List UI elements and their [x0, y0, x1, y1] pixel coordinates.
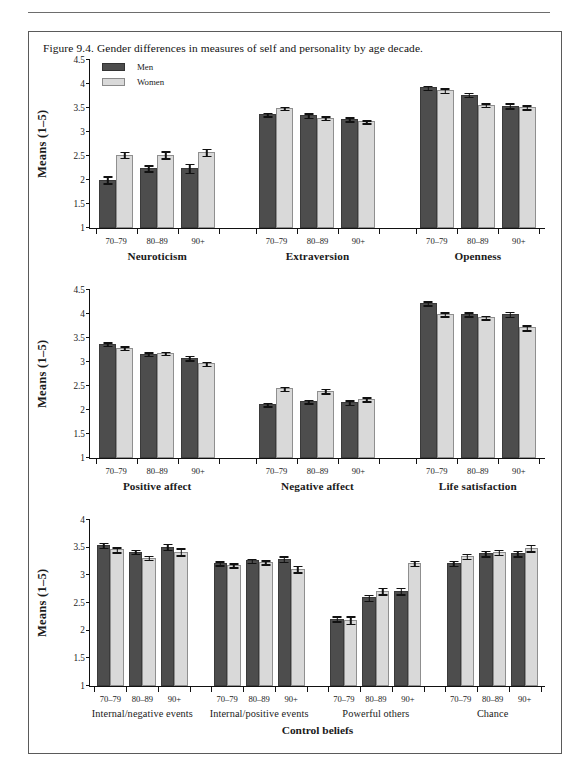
x-tick-mark	[498, 229, 499, 234]
bar-men	[511, 553, 525, 686]
error-bar	[321, 389, 330, 395]
bar-men	[420, 87, 437, 228]
bar-men	[259, 114, 276, 228]
panel-openness	[411, 60, 545, 228]
y-tick-label: 4.5	[73, 285, 90, 294]
error-bar	[202, 149, 211, 158]
error-bar	[163, 544, 172, 552]
figure-container: Figure 9.4. Gender differences in measur…	[28, 31, 562, 754]
bar-men	[181, 358, 198, 458]
bar-women	[358, 121, 375, 228]
bar-men	[140, 168, 157, 228]
error-bar	[145, 556, 154, 562]
error-bar	[177, 548, 186, 557]
panel-internal-negative-events	[90, 520, 195, 686]
y-tick-label: 1.5	[73, 654, 90, 663]
x-tick-mark	[379, 229, 380, 234]
page-top-rule	[28, 12, 550, 13]
plot-canvas: 11.522.533.544.570–7980–8990+70–7980–899…	[89, 60, 545, 228]
error-bar	[263, 113, 272, 118]
bar-women	[317, 118, 334, 228]
error-bar	[449, 561, 458, 568]
bar-women	[376, 591, 390, 686]
panel-title: Powerful others	[342, 708, 409, 719]
y-tick-label: 4	[80, 79, 90, 88]
x-tick-mark	[477, 687, 478, 692]
bar-men	[181, 168, 198, 228]
bar-group-container	[411, 60, 545, 228]
x-tick-mark	[498, 459, 499, 464]
x-axis-tick-label: 90+	[168, 694, 181, 704]
x-tick-mark	[360, 687, 361, 692]
x-axis-tick-label: 80–89	[307, 466, 328, 476]
error-bar	[346, 616, 355, 625]
panel-chance	[440, 520, 545, 686]
x-axis-tick-label: 80–89	[365, 694, 386, 704]
bar-group-container	[250, 60, 384, 228]
bar-men	[447, 563, 461, 686]
x-axis-tick-label: 70–79	[105, 466, 126, 476]
error-bar	[333, 616, 342, 623]
bar-women	[116, 155, 133, 228]
y-tick-label: 2	[80, 626, 90, 635]
error-bar	[321, 116, 330, 121]
bar-women	[493, 552, 507, 686]
error-bar	[120, 346, 129, 351]
error-bar	[248, 559, 257, 565]
x-axis-tick-label: 90+	[512, 236, 525, 246]
x-axis-tick-label: 70–79	[426, 466, 447, 476]
x-axis-tick-label: 80–89	[482, 694, 503, 704]
bar-group	[300, 290, 334, 458]
plot-area: 11.522.533.544.570–7980–8990+70–7980–899…	[89, 60, 544, 228]
x-axis-tick-label: 80–89	[307, 236, 328, 246]
x-tick-marks	[90, 229, 545, 234]
y-tick-label: 3	[80, 571, 90, 580]
bar-women	[227, 565, 241, 686]
bar-men	[502, 314, 519, 458]
bar-women	[519, 327, 536, 458]
bar-women	[408, 563, 422, 686]
bar-women	[437, 90, 454, 228]
bar-group	[161, 520, 188, 686]
x-tick-mark	[416, 459, 417, 464]
bar-women	[358, 399, 375, 458]
bar-women	[174, 552, 188, 686]
bar-men	[341, 402, 358, 458]
bar-women	[142, 558, 156, 686]
error-bar	[131, 550, 140, 556]
x-tick-mark	[256, 459, 257, 464]
error-bar	[378, 588, 387, 596]
y-axis-label: Means (1–5)	[35, 298, 53, 450]
chart-row-3: Means (1–5)11.522.533.5470–7980–8990+70–…	[29, 520, 563, 750]
bar-group-container	[207, 520, 312, 686]
error-bar	[293, 566, 302, 574]
bar-women	[276, 108, 293, 228]
x-tick-mark	[509, 687, 510, 692]
bar-group-container	[324, 520, 429, 686]
legend-swatch-women	[102, 78, 125, 86]
bar-group-container	[440, 520, 545, 686]
bar-men	[99, 180, 116, 228]
bar-women	[259, 562, 273, 686]
bar-men	[341, 119, 358, 228]
bar-group	[99, 290, 133, 458]
x-tick-mark	[297, 229, 298, 234]
y-tick-mark	[86, 457, 90, 458]
error-bar	[202, 362, 211, 368]
panel-life-satisfaction	[411, 290, 545, 458]
bar-group	[447, 520, 474, 686]
error-bar	[345, 400, 354, 406]
error-bar	[362, 120, 371, 125]
x-tick-mark	[297, 459, 298, 464]
error-bar	[513, 551, 522, 558]
bar-women	[110, 549, 124, 686]
x-axis-tick-label: 80–89	[248, 694, 269, 704]
bar-men	[140, 354, 157, 458]
panel-negative-affect	[250, 290, 384, 458]
x-tick-mark	[178, 459, 179, 464]
panel-positive-affect	[90, 290, 224, 458]
x-axis-tick-label: 90+	[284, 694, 297, 704]
error-bar	[362, 397, 371, 403]
bar-men	[300, 401, 317, 458]
error-bar	[523, 105, 532, 111]
